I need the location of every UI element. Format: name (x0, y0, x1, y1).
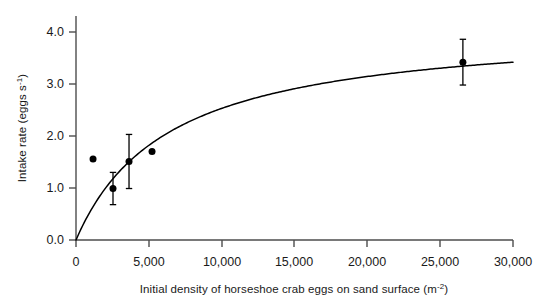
x-axis-title-main: Initial density of horseshoe crab eggs o… (140, 283, 437, 295)
y-tick-label-2: 2.0 (47, 129, 64, 143)
data-marker (109, 185, 116, 192)
x-tick-label-20000: 20,000 (348, 255, 386, 269)
x-axis-title-tail: ) (444, 283, 448, 295)
data-marker (126, 158, 133, 165)
x-tick-label-5000: 5,000 (133, 255, 164, 269)
x-tick-label-15000: 15,000 (275, 255, 313, 269)
y-tick-label-4: 4.0 (47, 25, 64, 39)
data-marker (149, 148, 156, 155)
x-tick-label-30000: 30,000 (494, 255, 532, 269)
y-axis-title: Intake rate (eggs s-1) (15, 74, 28, 182)
y-axis-title-main: Intake rate (eggs s (16, 85, 28, 182)
x-tick-label-25000: 25,000 (421, 255, 459, 269)
data-marker (459, 59, 466, 66)
x-axis-title: Initial density of horseshoe crab eggs o… (140, 282, 449, 295)
x-tick-label-0: 0 (73, 255, 80, 269)
data-point (149, 148, 156, 155)
x-tick-label-10000: 10,000 (203, 255, 241, 269)
data-marker (90, 155, 97, 162)
chart-figure: 4.0 3.0 2.0 1.0 0.0 0 5,000 10,000 15,00… (0, 0, 559, 306)
y-tick-label-1: 1.0 (47, 181, 64, 195)
y-tick-label-3: 3.0 (47, 77, 64, 91)
data-point (90, 155, 97, 162)
y-tick-label-0: 0.0 (47, 233, 64, 247)
y-axis-title-tail: ) (16, 74, 28, 78)
